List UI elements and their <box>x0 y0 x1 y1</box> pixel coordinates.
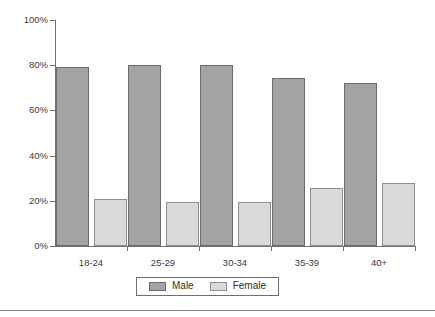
y-tick-mark <box>50 110 55 111</box>
plot-area: 0%20%40%60%80%100% 18-2425-2930-3435-394… <box>55 20 415 246</box>
bar-female-25-29 <box>166 202 199 246</box>
y-tick-mark <box>50 246 55 247</box>
y-tick-label: 100% <box>24 15 48 25</box>
y-tick-label: 0% <box>34 241 48 251</box>
x-tick-mark <box>127 246 128 251</box>
legend-swatch-female-icon <box>210 282 227 291</box>
x-tick-mark <box>271 246 272 251</box>
bar-female-40+ <box>382 183 415 246</box>
chart-legend: Male Female <box>136 277 279 296</box>
y-tick-label: 20% <box>29 196 48 206</box>
bar-male-18-24 <box>56 67 89 246</box>
x-tick-mark <box>343 246 344 251</box>
y-tick-mark <box>50 156 55 157</box>
bottom-divider <box>0 310 435 311</box>
bar-male-30-34 <box>200 65 233 246</box>
x-tick-label: 35-39 <box>295 258 319 268</box>
bar-male-40+ <box>344 83 377 246</box>
y-tick-mark <box>50 20 55 21</box>
y-tick-label: 60% <box>29 106 48 116</box>
bar-male-25-29 <box>128 65 161 246</box>
bar-male-35-39 <box>272 78 305 246</box>
legend-label-female: Female <box>233 281 266 291</box>
legend-item-male[interactable]: Male <box>149 281 194 291</box>
x-tick-mark <box>415 246 416 251</box>
legend-swatch-male-icon <box>149 282 166 291</box>
legend-item-female[interactable]: Female <box>210 281 266 291</box>
x-tick-label: 25-29 <box>151 258 175 268</box>
bar-female-35-39 <box>310 188 343 246</box>
y-tick-label: 40% <box>29 151 48 161</box>
bar-female-18-24 <box>94 199 127 246</box>
bar-female-30-34 <box>238 202 271 246</box>
bar-chart-figure: 0%20%40%60%80%100% 18-2425-2930-3435-394… <box>0 0 435 317</box>
y-tick-mark <box>50 201 55 202</box>
legend-label-male: Male <box>172 281 194 291</box>
x-axis-line <box>55 246 415 247</box>
x-tick-label: 40+ <box>371 258 387 268</box>
y-tick-mark <box>50 65 55 66</box>
x-tick-label: 18-24 <box>79 258 103 268</box>
y-tick-label: 80% <box>29 60 48 70</box>
x-tick-label: 30-34 <box>223 258 247 268</box>
x-tick-mark <box>199 246 200 251</box>
